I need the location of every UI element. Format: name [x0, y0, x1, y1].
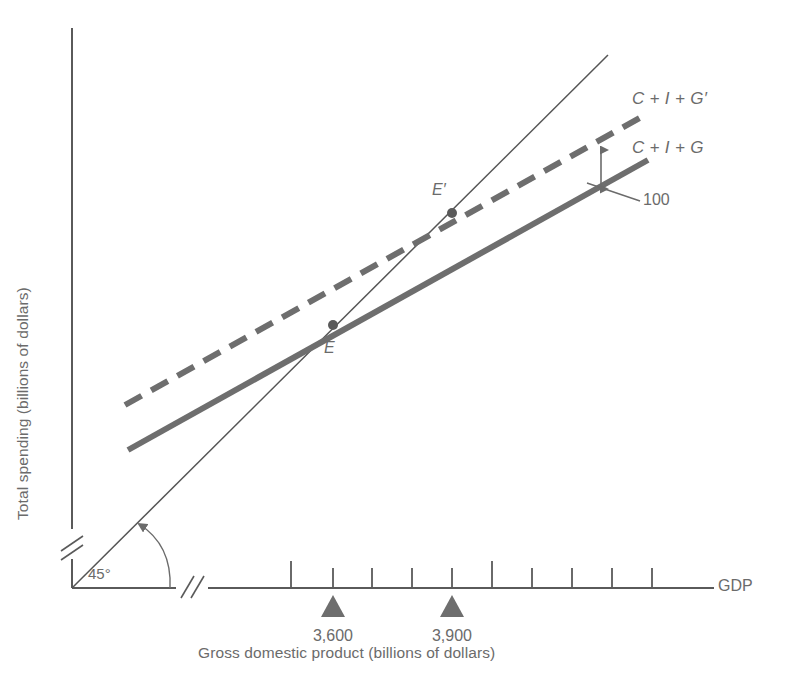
- triangle-marker-3900: [440, 595, 464, 617]
- gap-value-label: 100: [643, 192, 670, 208]
- equilibrium-point-e-prime: [447, 208, 457, 218]
- angle-label-45deg: 45°: [88, 566, 111, 581]
- spending-gap-arrow: [587, 150, 640, 201]
- c-i-g-line: [128, 160, 648, 450]
- x-tick-label-3900: 3,900: [422, 628, 482, 644]
- x-axis-title: Gross domestic product (billions of doll…: [198, 645, 495, 661]
- x-axis-break-icon: [176, 574, 208, 600]
- equilibrium-point-e: [328, 320, 338, 330]
- equilibrium-label-e: E: [324, 340, 335, 356]
- keynesian-cross-figure: Total spending (billions of dollars) Gro…: [0, 0, 790, 685]
- forty-five-degree-line: [72, 55, 608, 588]
- series-label-c-i-g: C + I + G: [632, 139, 704, 156]
- y-axis-title-wrap: Total spending (billions of dollars): [10, 140, 40, 520]
- y-axis-break-icon: [60, 529, 84, 560]
- x-tick-triangle-markers: [321, 595, 464, 617]
- y-axis-title: Total spending (billions of dollars): [14, 287, 32, 520]
- c-i-g-prime-line: [125, 115, 645, 405]
- equilibrium-label-e-prime: E′: [432, 182, 446, 198]
- angle-arc-arrow: [139, 524, 170, 588]
- x-tick-label-3600: 3,600: [303, 628, 363, 644]
- triangle-marker-3600: [321, 595, 345, 617]
- x-axis-ticks: [291, 561, 652, 588]
- x-axis-end-label: GDP: [718, 578, 753, 594]
- series-label-c-i-g-prime: C + I + G′: [632, 90, 707, 107]
